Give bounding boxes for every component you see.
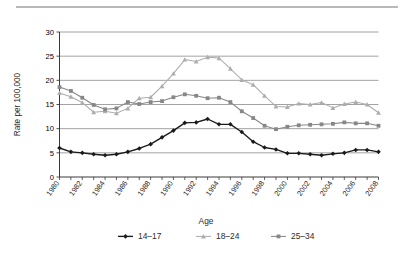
- data-point: [69, 150, 74, 155]
- data-point: [80, 100, 85, 104]
- x-tick-label: 1984: [90, 179, 107, 198]
- data-point: [285, 125, 289, 129]
- data-point: [274, 147, 279, 152]
- data-point: [137, 146, 142, 151]
- x-tick-label: 1986: [113, 179, 130, 198]
- y-tick-label: 30: [46, 28, 54, 37]
- data-point: [376, 150, 381, 155]
- data-point: [194, 120, 199, 125]
- data-point: [57, 146, 62, 151]
- x-tick-label: 1994: [204, 179, 221, 198]
- data-point: [319, 153, 324, 158]
- data-point: [377, 124, 381, 128]
- data-point: [285, 151, 290, 156]
- data-point: [342, 151, 347, 156]
- x-tick-label: 1998: [249, 179, 266, 198]
- data-point: [240, 109, 244, 113]
- data-point: [194, 94, 198, 98]
- data-point: [365, 148, 370, 153]
- data-point: [103, 153, 108, 158]
- legend-label: 18–24: [216, 231, 240, 241]
- data-point: [296, 151, 301, 156]
- y-tick-label: 20: [46, 76, 54, 85]
- data-point: [217, 96, 221, 100]
- legend: 14–1718–2425–34: [118, 231, 315, 241]
- data-point: [342, 120, 346, 124]
- data-point: [103, 107, 107, 111]
- legend-label: 14–17: [138, 231, 162, 241]
- x-tick-label: 2002: [295, 179, 312, 198]
- data-point: [183, 92, 187, 96]
- y-tick-label: 10: [46, 124, 54, 133]
- y-tick-label: 15: [46, 100, 54, 109]
- x-tick-label: 2004: [318, 179, 335, 198]
- data-point: [123, 234, 128, 239]
- x-tick-label: 1982: [67, 179, 84, 198]
- data-point: [365, 121, 369, 125]
- y-tick-label: 25: [46, 52, 54, 61]
- x-tick-label: 1996: [227, 179, 244, 198]
- data-point: [92, 103, 96, 107]
- data-point: [217, 122, 222, 127]
- data-point: [149, 100, 153, 104]
- data-point: [205, 117, 210, 122]
- y-axis-title: Rate per 100,000: [13, 72, 22, 136]
- legend-item-14-17[interactable]: 14–17: [118, 231, 162, 241]
- data-point: [263, 124, 267, 128]
- x-tick-label: 2006: [341, 179, 358, 198]
- x-tick-label: 1988: [135, 179, 152, 198]
- legend-title: Age: [199, 216, 214, 226]
- gridlines: [60, 32, 379, 153]
- data-point: [353, 148, 358, 153]
- data-point: [126, 150, 131, 155]
- figure-container: 0510152025301980198219841986198819901992…: [0, 0, 412, 254]
- data-point: [354, 121, 358, 125]
- legend-label: 25–34: [291, 231, 315, 241]
- data-point: [331, 152, 336, 157]
- data-point: [331, 122, 335, 126]
- x-tick-label: 1990: [158, 179, 175, 198]
- data-point: [80, 151, 85, 156]
- x-tick-label: 2008: [363, 179, 380, 198]
- data-point: [262, 145, 267, 150]
- line-chart: 0510152025301980198219841986198819901992…: [0, 0, 412, 254]
- data-point: [160, 99, 164, 103]
- data-point: [308, 123, 312, 127]
- data-point: [320, 122, 324, 126]
- data-point: [228, 100, 232, 104]
- data-point: [274, 127, 278, 131]
- data-point: [80, 96, 84, 100]
- legend-item-25-34[interactable]: 25–34: [271, 231, 315, 241]
- x-tick-label: 2000: [272, 179, 289, 198]
- y-axis-ticks: 051015202530: [46, 28, 60, 182]
- x-tick-label: 1992: [181, 179, 198, 198]
- y-tick-label: 5: [50, 149, 54, 158]
- data-point: [251, 116, 255, 120]
- data-point: [58, 85, 62, 89]
- data-point: [137, 102, 141, 106]
- data-point: [126, 100, 130, 104]
- data-point: [57, 91, 62, 95]
- data-point: [172, 95, 176, 99]
- x-axis-tick-labels: 1980198219841986198819901992199419961998…: [44, 179, 380, 198]
- series-18-24: [57, 55, 381, 116]
- legend-item-18-24[interactable]: 18–24: [196, 231, 240, 241]
- data-point: [277, 235, 281, 239]
- data-point: [115, 106, 119, 110]
- data-point: [206, 96, 210, 100]
- data-point: [69, 89, 73, 93]
- x-tick-label: 1980: [44, 179, 61, 198]
- data-point: [297, 123, 301, 127]
